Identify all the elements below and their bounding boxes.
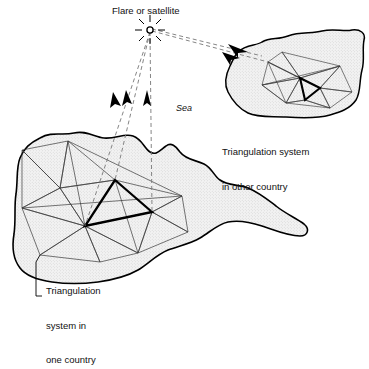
other-country-caption-line2: in other country [222,181,309,193]
sea-label: Sea [176,103,192,115]
one-country-caption-line3: one country [46,354,101,366]
one-country-caption: Triangulation system in one country [46,262,101,369]
other-country-caption-line1: Triangulation system [222,146,309,158]
flare-label: Flare or satellite [112,5,180,17]
one-country-caption-line2: system in [46,320,101,332]
one-country-caption-line1: Triangulation [46,285,101,297]
other-country-caption: Triangulation system in other country [222,123,309,204]
